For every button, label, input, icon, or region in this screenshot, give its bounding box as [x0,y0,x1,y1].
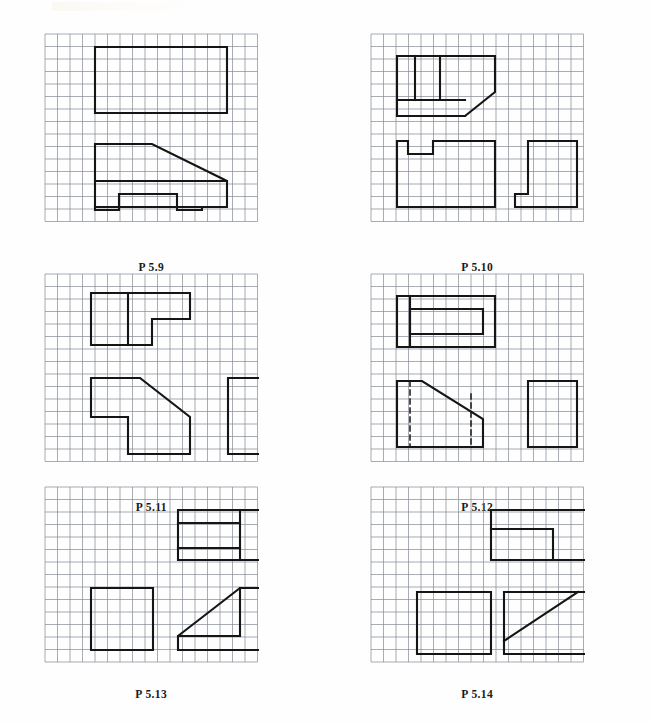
orthographic-views [417,510,585,654]
panel-caption-p514: P 5.14 [370,688,585,700]
front-view [91,588,153,650]
page-header-smudge [52,2,202,11]
side-view [504,592,585,654]
orthographic-views [397,56,577,207]
exercise-panel-p511: P 5.11 [44,273,259,463]
top-view-step [491,529,553,560]
exercise-panel-p59: P 5.9 [44,33,259,223]
exercise-panel-p510: P 5.10 [370,33,585,223]
worksheet-page: P 5.9P 5.10P 5.11P 5.12P 5.13P 5.14 [0,0,652,723]
top-view [491,510,585,560]
orthographic-views [397,296,577,447]
front-view [417,592,491,654]
graph-paper-grid [371,274,584,462]
drawing-canvas-p59 [44,33,259,223]
drawing-canvas-p513 [44,486,259,663]
panel-caption-p510: P 5.10 [370,261,585,273]
side-view [178,588,259,650]
exercise-panel-p512: P 5.12 [370,273,585,463]
front-view [91,378,190,454]
top-view [91,293,190,345]
drawing-canvas-p512 [370,273,585,463]
graph-paper-grid [371,487,584,662]
exercise-panel-p513: P 5.13 [44,486,259,663]
side-view [528,381,577,447]
panel-caption-p59: P 5.9 [44,261,259,273]
drawing-canvas-p510 [370,33,585,223]
drawing-canvas-p514 [370,486,585,663]
orthographic-views [91,510,259,650]
drawing-canvas-p511 [44,273,259,463]
orthographic-views [91,293,259,454]
exercise-panel-p514: P 5.14 [370,486,585,663]
top-view [178,510,259,560]
graph-paper-grid [45,274,258,462]
graph-paper-grid [371,34,584,222]
panel-caption-p513: P 5.13 [44,688,259,700]
